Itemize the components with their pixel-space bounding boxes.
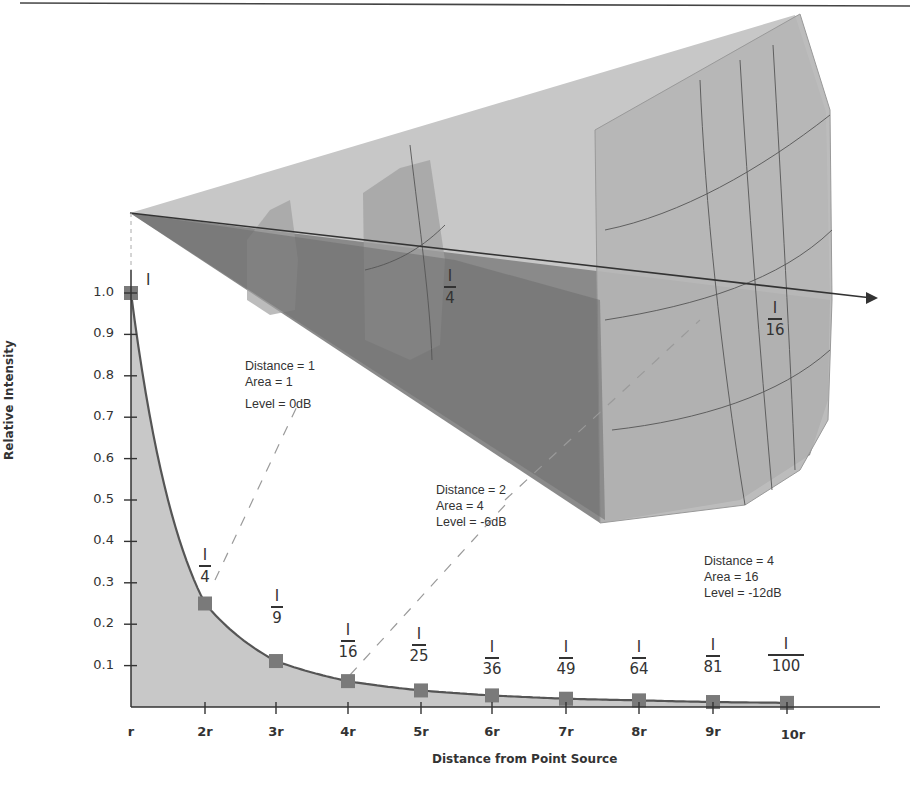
y-tick-label: 0.7 [74, 408, 114, 423]
x-tick-label: 7r [546, 724, 586, 739]
cone-label-quarter: I 4 [440, 268, 460, 307]
point-fraction-label: I49 [553, 639, 579, 678]
y-tick-label: 1.0 [74, 284, 114, 299]
data-point-marker [198, 597, 212, 611]
x-tick-label: 5r [401, 724, 441, 739]
x-tick-label: 2r [185, 724, 225, 739]
point-fraction-label: I16 [335, 622, 361, 661]
y-tick-label: 0.2 [74, 615, 114, 630]
sound-cone [130, 14, 878, 523]
point-fraction-label: I25 [406, 626, 432, 665]
y-tick-label: 0.4 [74, 532, 114, 547]
x-tick-label: 4r [328, 724, 368, 739]
x-tick-label: 8r [619, 724, 659, 739]
data-point-marker [414, 683, 428, 697]
point-fraction-label: I81 [700, 637, 726, 676]
x-tick-label: 6r [472, 724, 512, 739]
point-fraction-label: I9 [269, 588, 285, 627]
data-point-marker [341, 674, 355, 688]
inverse-square-figure: 1.00.90.80.70.60.50.40.30.20.1 r2r3r4r5r… [0, 0, 918, 793]
point-label-1: I [146, 272, 150, 288]
annotation-distance-2: Distance = 2 Area = 4 Level = -6dB [436, 482, 507, 530]
point-fraction-label: I4 [197, 547, 213, 586]
y-axis-title: Relative Intensity [2, 340, 16, 460]
y-tick-label: 0.8 [74, 367, 114, 382]
cone-label-sixteenth: I 16 [762, 300, 788, 339]
x-axis-title: Distance from Point Source [432, 752, 617, 766]
x-tick-label: 3r [256, 724, 296, 739]
x-tick-label: 9r [693, 724, 733, 739]
annotation-distance-4: Distance = 4 Area = 16 Level = -12dB [704, 553, 781, 601]
arrow-head-icon [866, 292, 878, 304]
x-tick-label: 10r [773, 727, 813, 742]
y-tick-label: 0.6 [74, 450, 114, 465]
y-tick-label: 0.3 [74, 574, 114, 589]
annotation-distance-1: Distance = 1 Area = 1 Level = 0dB [245, 358, 315, 412]
y-tick-label: 0.9 [74, 325, 114, 340]
data-point-marker [269, 654, 283, 668]
point-fraction-label: I64 [626, 639, 652, 678]
data-point-marker [485, 688, 499, 702]
x-tick-label: r [111, 724, 151, 739]
y-tick-label: 0.1 [74, 657, 114, 672]
point-fraction-label: I100 [766, 636, 806, 675]
y-tick-label: 0.5 [74, 491, 114, 506]
top-rule [20, 3, 910, 6]
point-fraction-label: I36 [479, 639, 505, 678]
